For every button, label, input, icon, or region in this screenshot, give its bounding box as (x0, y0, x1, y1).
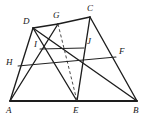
segment-CE (77, 17, 90, 101)
vertex-label-g: G (53, 11, 60, 20)
segment-DB (33, 28, 137, 101)
vertex-label-a: A (6, 106, 12, 115)
vertex-label-f: F (119, 47, 125, 56)
segment-HF (18, 57, 116, 66)
vertex-label-e: E (73, 106, 79, 115)
edge-layer (10, 17, 137, 101)
vertex-label-c: C (87, 4, 93, 13)
segment-GC (58, 17, 90, 24)
vertex-label-i: I (34, 40, 37, 49)
vertex-label-b: B (133, 106, 139, 115)
geometry-figure: ABCDEFGHIJ (0, 0, 146, 125)
vertex-label-j: J (87, 37, 91, 46)
vertex-label-h: H (6, 58, 13, 67)
segment-IJ (40, 48, 84, 49)
vertex-label-d: D (23, 17, 30, 26)
segment-DG (33, 24, 58, 28)
